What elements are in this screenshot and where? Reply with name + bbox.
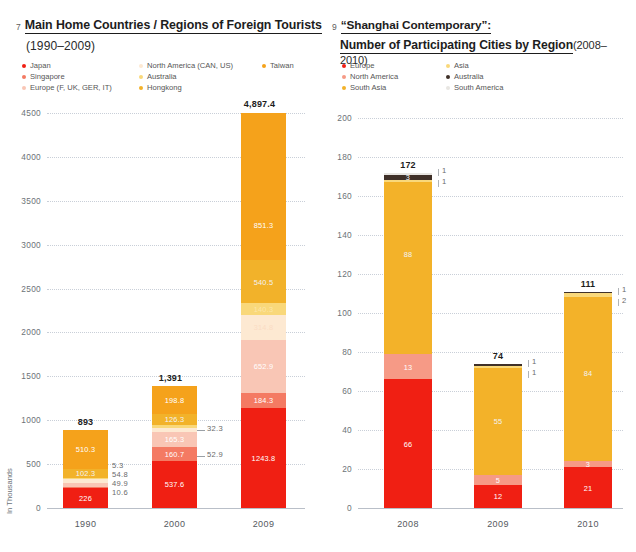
legend-swatch-japan — [22, 64, 26, 68]
bar-segment-singapore: 184.3 — [241, 393, 286, 408]
callout-tick — [438, 180, 439, 187]
segment-value: 510.3 — [63, 445, 108, 454]
callout-australia-2009: 1 — [532, 357, 537, 366]
y-tick: 200 — [318, 113, 352, 123]
bar-segment-europe: 165.3 — [152, 432, 197, 447]
legend-label-hongkong: Hongkong — [147, 83, 182, 92]
callout-tick — [438, 169, 439, 176]
x-tick-2009: 2009 — [241, 519, 286, 529]
legend-item-taiwan: Taiwan — [262, 61, 294, 70]
gridline — [358, 157, 623, 158]
legend-label-taiwan: Taiwan — [270, 61, 294, 70]
segment-value: 140.3 — [241, 305, 286, 314]
bar-total-2009: 74 — [474, 351, 522, 361]
leader-line — [197, 430, 205, 431]
legend-label-australia: Australia — [147, 72, 177, 81]
callout-tick — [528, 360, 529, 367]
bar-segment-north-america — [63, 478, 108, 483]
bar-segment-north-america: 5 — [474, 475, 522, 485]
y-tick: 80 — [318, 347, 352, 357]
legend-item-japan: Japan — [22, 61, 139, 70]
bar-segment-japan: 1243.8 — [241, 408, 286, 508]
bar-2009[interactable]: 12 5 55 — [474, 364, 522, 508]
bar-segment-south-asia: 84 — [564, 297, 612, 461]
bar-segment-australia — [474, 364, 522, 366]
outside-label-singapore-1990: 10.6 — [112, 488, 128, 497]
segment-value: 55 — [474, 417, 522, 426]
right-figure-number: 9 — [332, 22, 337, 34]
legend-label-singapore: Singapore — [30, 72, 65, 81]
bar-segment-north-america: 314.8 — [241, 315, 286, 340]
legend-swatch-south-asia — [342, 86, 346, 90]
bar-segment-asia — [564, 293, 612, 297]
legend-item-north-america: North America — [342, 72, 446, 81]
legend-item-south-america: South America — [446, 83, 503, 92]
left-plot-area: 226 102.3 510.3 893 5.3 54.8 49.9 10.6 5… — [47, 113, 305, 508]
legend-label-australia: Australia — [454, 72, 484, 81]
left-figure-number: 7 — [16, 22, 21, 34]
segment-value: 102.3 — [63, 469, 108, 478]
right-chart-legend: Europe North America South Asia Asia Aus… — [342, 61, 503, 92]
outside-label-australia-1990: 5.3 — [112, 461, 123, 470]
y-tick: 180 — [318, 152, 352, 162]
y-tick: 3500 — [0, 196, 41, 206]
bar-segment-singapore — [63, 487, 108, 488]
legend-swatch-taiwan — [262, 64, 266, 68]
y-tick: 2000 — [0, 327, 41, 337]
legend-item-europe: Europe (F, UK, GER, IT) — [22, 83, 139, 92]
x-axis-line — [358, 508, 623, 509]
legend-swatch-north-america — [342, 75, 346, 79]
legend-swatch-asia — [446, 64, 450, 68]
bar-segment-asia — [384, 180, 432, 182]
x-tick-2010: 2010 — [564, 519, 612, 529]
bar-segment-taiwan: 510.3 — [63, 430, 108, 469]
bar-segment-taiwan: 198.8 — [152, 386, 197, 414]
gridline — [358, 118, 623, 119]
bar-total-2000: 1,391 — [148, 373, 193, 383]
legend-item-singapore: Singapore — [22, 72, 139, 81]
legend-item-north-america: North America (CAN, US) — [139, 61, 262, 70]
bar-segment-taiwan-upper — [241, 113, 286, 191]
bar-segment-asia — [474, 366, 522, 368]
legend-label-south-asia: South Asia — [350, 83, 386, 92]
bar-segment-south-asia: 55 — [474, 368, 522, 475]
legend-swatch-europe — [342, 64, 346, 68]
callout-tick — [618, 299, 619, 306]
x-tick-1990: 1990 — [63, 519, 108, 529]
bar-2008[interactable]: 66 13 88 3 — [384, 173, 432, 508]
bar-segment-australia — [152, 425, 197, 428]
x-axis-line — [47, 508, 305, 509]
outside-label-europe-1990: 49.9 — [112, 479, 128, 488]
bar-segment-australia: 3 — [384, 175, 432, 181]
segment-value: 198.8 — [152, 395, 197, 404]
y-tick: 0 — [318, 503, 352, 513]
bar-1990[interactable]: 226 102.3 510.3 — [63, 430, 108, 508]
bar-2000[interactable]: 537.6 160.7 165.3 126.3 198.8 — [152, 386, 197, 508]
left-chart-header: 7 Main Home Countries / Regions of Forei… — [16, 18, 312, 53]
legend-item-asia: Asia — [446, 61, 503, 70]
legend-item-australia: Australia — [139, 72, 262, 81]
legend-swatch-australia — [139, 75, 143, 79]
segment-value: 12 — [474, 492, 522, 501]
segment-value: 652.9 — [241, 362, 286, 371]
bar-segment-hongkong: 102.3 — [63, 469, 108, 478]
chart-panel-tourists: 7 Main Home Countries / Regions of Forei… — [0, 0, 318, 552]
bar-total-2009: 4,897.4 — [237, 99, 282, 109]
outside-label-north-america-2000: 52.9 — [207, 450, 223, 459]
legend-label-europe: Europe (F, UK, GER, IT) — [30, 83, 112, 92]
bar-2010[interactable]: 21 3 84 — [564, 292, 612, 509]
bar-segment-japan: 537.6 — [152, 461, 197, 508]
left-chart-legend: Japan Singapore Europe (F, UK, GER, IT) … — [22, 61, 294, 92]
bar-segment-australia — [564, 292, 612, 294]
bar-segment-europe: 21 — [564, 467, 612, 508]
y-tick: 2500 — [0, 284, 41, 294]
left-chart-title: Main Home Countries / Regions of Foreign… — [25, 18, 322, 34]
segment-value: 537.6 — [152, 480, 197, 489]
segment-value: 184.3 — [241, 396, 286, 405]
outside-label-north-america-1990: 54.8 — [112, 470, 128, 479]
bar-segment-japan: 226 — [63, 488, 108, 508]
segment-value: 540.5 — [241, 277, 286, 286]
bar-2009[interactable]: 1243.8 184.3 652.9 314.8 140.3 540.5 851… — [241, 113, 286, 508]
leader-line — [197, 456, 205, 457]
legend-swatch-singapore — [22, 75, 26, 79]
